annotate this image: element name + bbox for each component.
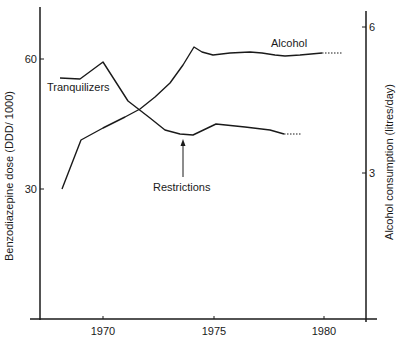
left-axis-title: Benzodiazepine dose (DDD/ 1000)	[3, 91, 15, 261]
x-tick-1975: 1975	[202, 325, 226, 337]
y-tick-60: 60	[25, 53, 37, 65]
restrictions-arrow-icon	[181, 139, 186, 146]
alcohol-label: Alcohol	[271, 37, 307, 49]
restrictions-label: Restrictions	[153, 181, 211, 193]
right-axis-title: Alcohol consumption (litres/day)	[383, 84, 395, 240]
x-tick-1970: 1970	[91, 325, 115, 337]
alcohol-line	[62, 47, 322, 189]
chart-figure: 1970 1975 1980 60 30 6 3 Benzodiazepine …	[0, 0, 399, 339]
chart-svg: 1970 1975 1980 60 30 6 3 Benzodiazepine …	[0, 0, 399, 339]
right-tick-3: 3	[369, 167, 375, 179]
x-tick-1980: 1980	[312, 325, 336, 337]
tranquilizers-line	[60, 62, 284, 135]
tranquilizers-label: Tranquilizers	[47, 81, 110, 93]
y-tick-30: 30	[25, 183, 37, 195]
right-tick-6: 6	[369, 21, 375, 33]
